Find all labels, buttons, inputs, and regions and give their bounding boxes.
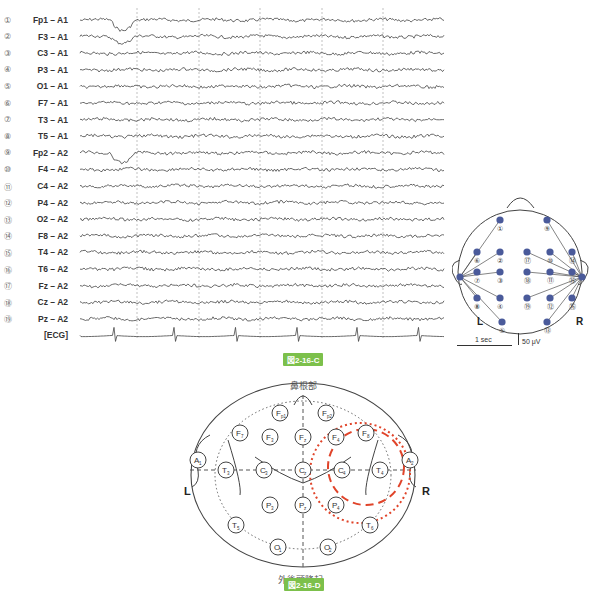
nasion-label: 鼻根部 bbox=[290, 380, 317, 391]
electrode-number: ⑥ bbox=[474, 257, 480, 264]
electrode-fz: Fz bbox=[295, 429, 311, 445]
svg-text:p2: p2 bbox=[327, 414, 333, 419]
eeg-trace bbox=[80, 18, 444, 32]
electrode-node bbox=[543, 318, 550, 325]
eeg-trace bbox=[80, 300, 444, 304]
eeg-trace bbox=[80, 151, 444, 164]
figure-caption-d: 図2-16-D bbox=[284, 578, 324, 591]
ecg-trace bbox=[80, 327, 444, 341]
electrode-pz: Pz bbox=[295, 497, 311, 513]
eeg-trace bbox=[80, 134, 444, 139]
electrode-o2: O2 bbox=[320, 539, 336, 555]
electrode-node bbox=[523, 294, 530, 301]
electrode-p3: P3 bbox=[262, 497, 278, 513]
electrode-number: ⑬ bbox=[544, 327, 551, 334]
electrode-node bbox=[523, 248, 530, 255]
electrode-node bbox=[546, 294, 553, 301]
eeg-trace bbox=[80, 51, 444, 55]
electrode-placement-diagram: Fp1Fp2F7F3FzF4F8A1T3C3CzC4T4A2T5P3PzP4T6… bbox=[170, 375, 470, 585]
montage-head-diagram: ①②③④⑤⑥⑦⑧⑨⑩⑪⑫⑬⑭⑮⑯⑰⑱⑲ L R bbox=[452, 190, 612, 350]
electrode-c4: C4 bbox=[334, 462, 350, 478]
electrode-number: ⑲ bbox=[524, 303, 531, 310]
figure-caption-c: 図2-16-C bbox=[283, 353, 323, 366]
reference-node bbox=[578, 273, 585, 280]
eeg-trace bbox=[80, 317, 444, 321]
eeg-trace bbox=[80, 217, 444, 221]
electrode-p4: P4 bbox=[328, 497, 344, 513]
electrode-number: ③ bbox=[497, 277, 503, 284]
electrode-fp1: Fp1 bbox=[272, 405, 288, 421]
electrode-t5: T5 bbox=[228, 517, 244, 533]
left-ear bbox=[452, 260, 462, 285]
electrode-number: ⑫ bbox=[547, 303, 554, 310]
eeg-trace bbox=[80, 167, 444, 171]
eeg-trace bbox=[80, 101, 444, 106]
electrode-node bbox=[473, 294, 480, 301]
electrode-number: ⑧ bbox=[474, 303, 480, 310]
electrode-node bbox=[498, 318, 505, 325]
eeg-trace bbox=[80, 34, 444, 44]
electrode-node bbox=[523, 268, 530, 275]
left-label: L bbox=[477, 316, 483, 327]
eeg-figure: ①Fp1 – A1②F3 – A1③C3 – A1④P3 – A1⑤O1 – A… bbox=[0, 0, 615, 370]
eeg-trace bbox=[80, 68, 444, 72]
electrode-node bbox=[473, 268, 480, 275]
electrode-number: ② bbox=[497, 257, 503, 264]
electrode-number: ⑭ bbox=[569, 257, 576, 264]
electrode-number: ⑮ bbox=[569, 277, 576, 284]
right-label: R bbox=[422, 485, 430, 497]
electrode-number: ⑯ bbox=[569, 303, 576, 310]
reference-node bbox=[456, 273, 463, 280]
electrode-f8: F8 bbox=[358, 425, 374, 441]
electrode-node bbox=[496, 294, 503, 301]
electrode-a2: A2 bbox=[402, 452, 418, 468]
eeg-trace bbox=[80, 84, 444, 88]
electrode-number: ⑦ bbox=[474, 277, 480, 284]
electrode-node bbox=[496, 216, 503, 223]
electrode-node bbox=[496, 248, 503, 255]
right-label: R bbox=[576, 316, 584, 327]
electrode-f4: F4 bbox=[328, 429, 344, 445]
electrode-number: ⑪ bbox=[547, 277, 554, 284]
left-label: L bbox=[184, 485, 191, 497]
electrode-f3: F3 bbox=[262, 429, 278, 445]
electrode-node bbox=[543, 216, 550, 223]
electrode-cz: Cz bbox=[295, 462, 311, 478]
electrode-node bbox=[546, 248, 553, 255]
time-scale-label: 1 sec bbox=[475, 336, 492, 343]
electrode-node bbox=[568, 248, 575, 255]
electrode-node bbox=[473, 248, 480, 255]
electrode-t6: T6 bbox=[362, 517, 378, 533]
electrode-a1: A1 bbox=[190, 452, 206, 468]
electrode-node bbox=[568, 294, 575, 301]
electrode-t4: T4 bbox=[372, 462, 388, 478]
electrode-c3: C3 bbox=[256, 462, 272, 478]
amplitude-scale-bar bbox=[518, 333, 519, 345]
electrode-fp2: Fp2 bbox=[318, 405, 334, 421]
time-scale-bar bbox=[457, 345, 512, 346]
electrode-number: ⑰ bbox=[524, 257, 531, 264]
electrode-number: ① bbox=[497, 225, 503, 232]
eeg-trace bbox=[80, 200, 444, 205]
electrode-number: ⑩ bbox=[547, 257, 553, 264]
electrode-node bbox=[546, 268, 553, 275]
electrode-t3: T3 bbox=[218, 462, 234, 478]
eeg-trace bbox=[80, 250, 444, 255]
electrode-f7: F7 bbox=[232, 425, 248, 441]
nose-shape bbox=[507, 198, 534, 208]
electrode-number: ⑨ bbox=[544, 225, 550, 232]
electrode-node bbox=[568, 268, 575, 275]
svg-text:p1: p1 bbox=[281, 414, 287, 419]
electrode-number: ④ bbox=[497, 303, 503, 310]
electrode-o1: O1 bbox=[270, 539, 286, 555]
eeg-trace bbox=[80, 267, 444, 271]
electrode-number: ⑱ bbox=[524, 277, 531, 284]
eeg-trace bbox=[80, 283, 444, 287]
amplitude-scale-label: 50 μV bbox=[522, 338, 540, 345]
right-ear bbox=[578, 260, 588, 285]
eeg-trace bbox=[80, 184, 444, 188]
eeg-trace bbox=[80, 117, 444, 122]
electrode-number: ⑤ bbox=[499, 327, 505, 334]
electrode-node bbox=[496, 268, 503, 275]
eeg-trace bbox=[80, 234, 444, 238]
